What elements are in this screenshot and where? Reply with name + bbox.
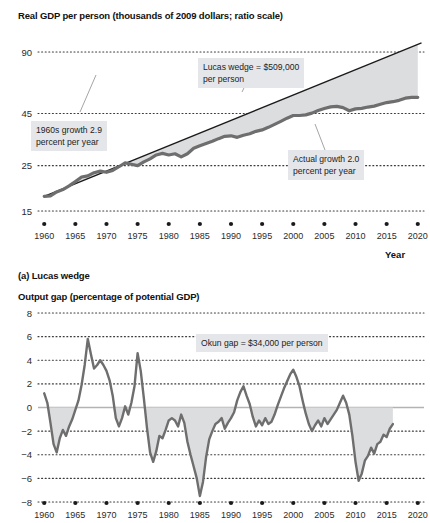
x-tick-label-bottom: 2010 [346, 510, 366, 520]
y-tick-label-top: 45 [21, 108, 32, 119]
x-tick-dot-top [260, 222, 264, 226]
x-tick-dot-bottom [291, 501, 295, 505]
x-tick-label-bottom: 1965 [65, 510, 85, 520]
subfigure-caption-a: (a) Lucas wedge [18, 270, 90, 281]
x-tick-label-bottom: 1995 [252, 510, 272, 520]
x-tick-dot-bottom [229, 501, 233, 505]
y-tick-label-bottom: 2 [27, 378, 32, 389]
x-tick-dot-top [416, 222, 420, 226]
x-tick-label-bottom: 1985 [190, 510, 210, 520]
x-tick-dot-top [42, 222, 46, 226]
x-tick-label-top: 1970 [96, 231, 116, 241]
x-tick-dot-bottom [416, 501, 420, 505]
figure-page: Real GDP per person (thousands of 2009 d… [0, 0, 430, 523]
x-tick-dot-top [104, 222, 108, 226]
x-tick-label-bottom: 2000 [283, 510, 303, 520]
x-tick-label-bottom: 2020 [408, 510, 428, 520]
annotation-leader-line [80, 75, 96, 112]
x-tick-label-top: 2010 [346, 231, 366, 241]
x-tick-label-bottom: 1975 [128, 510, 148, 520]
x-tick-label-bottom: 1990 [221, 510, 241, 520]
x-tick-dot-top [229, 222, 233, 226]
x-tick-dot-top [291, 222, 295, 226]
x-tick-label-bottom: 1970 [96, 510, 116, 520]
x-tick-label-top: 2005 [314, 231, 334, 241]
x-tick-label-top: 1985 [190, 231, 210, 241]
x-tick-dot-bottom [167, 501, 171, 505]
x-tick-dot-top [136, 222, 140, 226]
bottom-chart-title: Output gap (percentage of potential GDP) [18, 291, 199, 302]
y-tick-label-top: 15 [21, 206, 32, 217]
x-tick-dot-bottom [385, 501, 389, 505]
x-tick-dot-bottom [42, 501, 46, 505]
y-tick-label-bottom: 8 [27, 308, 32, 319]
y-tick-label-bottom: 6 [27, 331, 32, 342]
y-tick-label-bottom: 4 [27, 355, 32, 366]
x-tick-label-top: 1990 [221, 231, 241, 241]
x-tick-label-bottom: 1960 [34, 510, 54, 520]
y-tick-label-bottom: −2 [21, 426, 32, 437]
x-axis-name-top: Year [385, 249, 405, 260]
x-tick-label-top: 1975 [128, 231, 148, 241]
annotation-leader-line [315, 124, 325, 150]
x-tick-dot-bottom [136, 501, 140, 505]
x-tick-dot-top [198, 222, 202, 226]
x-tick-label-top: 2020 [408, 231, 428, 241]
x-tick-dot-top [353, 222, 357, 226]
x-tick-dot-bottom [73, 501, 77, 505]
x-tick-dot-bottom [322, 501, 326, 505]
x-tick-label-top: 2015 [377, 231, 397, 241]
x-tick-label-top: 1995 [252, 231, 272, 241]
top-chart-title: Real GDP per person (thousands of 2009 d… [18, 10, 283, 21]
annotation-okun-gap: Okun gap = $34,000 per person [196, 334, 328, 352]
annotation-lucas-wedge: Lucas wedge = $509,000 per person [198, 58, 304, 88]
x-tick-label-bottom: 2005 [314, 510, 334, 520]
x-tick-dot-bottom [260, 501, 264, 505]
x-tick-label-top: 2000 [283, 231, 303, 241]
y-tick-label-bottom: −4 [21, 449, 32, 460]
x-tick-dot-top [167, 222, 171, 226]
y-tick-label-top: 90 [21, 47, 32, 58]
y-tick-label-bottom: −6 [21, 473, 32, 484]
annotation-1960s-growth: 1960s growth 2.9 percent per year [31, 121, 107, 151]
x-tick-label-top: 1965 [65, 231, 85, 241]
x-tick-dot-bottom [104, 501, 108, 505]
y-tick-label-bottom: 0 [27, 402, 32, 413]
x-tick-label-bottom: 2015 [377, 510, 397, 520]
x-tick-dot-top [385, 222, 389, 226]
y-tick-label-top: 25 [21, 160, 32, 171]
x-tick-dot-bottom [353, 501, 357, 505]
x-tick-label-top: 1980 [159, 231, 179, 241]
y-tick-label-bottom: −8 [21, 497, 32, 508]
annotation-actual-growth: Actual growth 2.0 percent per year [288, 150, 364, 180]
x-tick-label-top: 1960 [34, 231, 54, 241]
x-tick-dot-top [322, 222, 326, 226]
x-tick-label-bottom: 1980 [159, 510, 179, 520]
x-tick-dot-top [73, 222, 77, 226]
x-tick-dot-bottom [198, 501, 202, 505]
